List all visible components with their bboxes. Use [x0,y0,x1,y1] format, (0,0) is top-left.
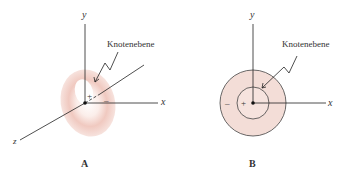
nodal-plane-label: Knotenebene [282,39,329,49]
y-axis-label: y [81,9,87,20]
nodal-plane-line [100,65,144,94]
minus-sign: – [224,98,230,108]
panel-a: y x z Knotenebene + – A [12,9,166,169]
panel-b: y x Knotenebene + – B [220,9,333,169]
z-axis-label: z [12,136,17,146]
nucleus [83,101,87,105]
plus-sign: + [87,91,92,101]
panel-label-b: B [249,158,256,169]
panel-label-a: A [81,158,89,169]
minus-sign: – [103,95,109,105]
y-axis-label: y [249,9,255,20]
x-axis-label: x [160,96,166,107]
nodal-plane-label: Knotenebene [107,39,154,49]
plus-sign: + [241,98,246,108]
nucleus [251,101,255,105]
x-axis-label: x [327,97,333,108]
orbital-diagram: y x z Knotenebene + – A y x Knotenebene … [0,0,350,181]
